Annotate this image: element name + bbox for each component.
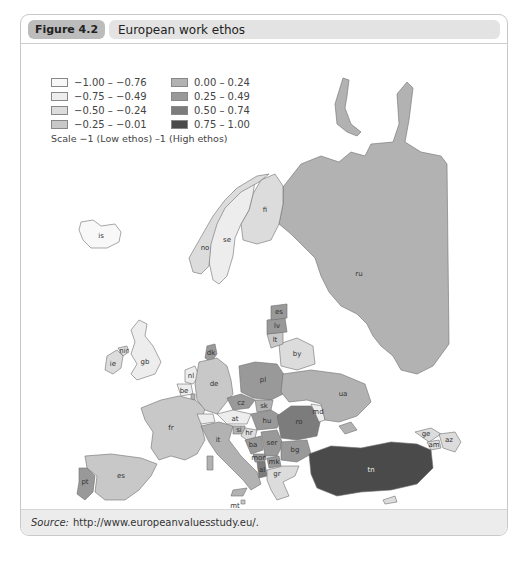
label-am: am	[428, 441, 439, 449]
legend-swatch	[171, 106, 188, 115]
label-ro: ro	[295, 418, 302, 426]
label-ua: ua	[339, 390, 348, 398]
region-mt	[241, 500, 245, 504]
label-dk: dk	[207, 349, 216, 357]
label-de: de	[210, 380, 219, 388]
legend-item: −0.50 – −0.24	[51, 104, 151, 117]
legend-label: 0.50 – 0.74	[194, 105, 250, 116]
label-md: md	[312, 408, 323, 416]
legend-label: 0.00 – 0.24	[194, 77, 250, 88]
label-bg: bg	[291, 446, 300, 454]
legend-swatch	[51, 120, 68, 129]
legend-item: 0.75 – 1.00	[171, 118, 281, 131]
label-pt: pt	[81, 478, 88, 486]
figure-title: European work ethos	[109, 20, 500, 39]
label-at: at	[231, 415, 238, 423]
region-ru	[279, 82, 449, 374]
label-gr: gr	[273, 470, 280, 478]
label-ee: es	[275, 308, 283, 316]
label-ge: ge	[422, 430, 431, 438]
label-cz: cz	[237, 399, 245, 407]
legend-swatch	[171, 92, 188, 101]
figure-header: Figure 4.2 European work ethos	[21, 15, 507, 44]
scale-note: Scale −1 (Low ethos) –1 (High ethos)	[51, 133, 281, 144]
label-fr: fr	[168, 424, 173, 432]
label-nl: nl	[188, 372, 194, 380]
label-lt: lt	[273, 336, 278, 344]
legend-item: 0.50 – 0.74	[171, 104, 281, 117]
legend-label: −0.50 – −0.24	[74, 105, 147, 116]
label-hr: hr	[245, 429, 252, 437]
label-ie: ie	[110, 360, 116, 368]
label-no: no	[201, 244, 210, 252]
legend-item: 0.00 – 0.24	[171, 76, 281, 89]
label-pl: pl	[260, 376, 266, 384]
label-sk: sk	[260, 402, 269, 410]
label-is: is	[98, 232, 104, 240]
label-it: it	[216, 436, 221, 444]
label-mon: mon	[251, 454, 267, 462]
label-lv: lv	[274, 322, 280, 330]
map-area: is no se fi ie nir gb dk nl be de fr es …	[21, 44, 507, 510]
label-tr: tn	[367, 466, 374, 474]
label-az: az	[445, 436, 453, 444]
label-es: es	[117, 472, 125, 480]
label-fi: fi	[263, 206, 267, 214]
region-gb	[131, 320, 161, 380]
label-nir: nir	[119, 347, 128, 355]
label-ba: ba	[249, 441, 258, 449]
figure-frame: Figure 4.2 European work ethos	[20, 14, 508, 536]
legend-label: 0.25 – 0.49	[194, 91, 250, 102]
legend: −1.00 – −0.76 0.00 – 0.24 −0.75 – −0.49 …	[51, 76, 281, 144]
legend-swatch	[51, 106, 68, 115]
label-se: se	[223, 236, 231, 244]
region-cy	[383, 496, 397, 504]
source-url: http://www.europeanvaluesstudy.eu/.	[73, 517, 259, 528]
region-it-sardinia	[207, 456, 213, 470]
legend-swatch	[171, 120, 188, 129]
region-it-sicily	[231, 488, 247, 496]
legend-item: −0.75 – −0.49	[51, 90, 151, 103]
label-ru: ru	[355, 270, 362, 278]
label-ser: ser	[267, 439, 278, 447]
legend-label: −0.25 – −0.01	[74, 119, 147, 130]
region-ru-island	[335, 78, 361, 136]
legend-swatch	[171, 78, 188, 87]
legend-item: −0.25 – −0.01	[51, 118, 151, 131]
source-footer: Source: http://www.europeanvaluesstudy.e…	[21, 509, 507, 535]
legend-label: −0.75 – −0.49	[74, 91, 147, 102]
region-gr	[267, 466, 299, 500]
label-hu: hu	[263, 417, 272, 425]
legend-swatch	[51, 92, 68, 101]
legend-label: 0.75 – 1.00	[194, 119, 250, 130]
figure-number-badge: Figure 4.2	[28, 20, 105, 39]
source-label: Source:	[31, 517, 69, 528]
label-be: be	[180, 387, 189, 395]
label-by: by	[293, 350, 302, 358]
label-al: al	[259, 466, 265, 474]
label-mk: mk	[269, 458, 281, 466]
label-si: si	[236, 426, 242, 434]
legend-item: 0.25 – 0.49	[171, 90, 281, 103]
label-gb: gb	[141, 358, 150, 366]
region-ua-crimea	[339, 422, 357, 434]
legend-item: −1.00 – −0.76	[51, 76, 151, 89]
legend-swatch	[51, 78, 68, 87]
legend-label: −1.00 – −0.76	[74, 77, 147, 88]
